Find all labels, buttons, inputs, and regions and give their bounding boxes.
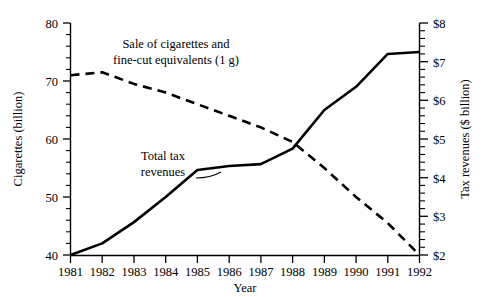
right-tick-label-5: $5	[433, 133, 446, 147]
x-tick-label-1982: 1982	[90, 265, 115, 279]
left-tick-label-50: 50	[46, 191, 59, 205]
sale-of-cigarettes-label-line1: Sale of cigarettes and	[122, 37, 230, 51]
x-tick-label-1981: 1981	[58, 265, 83, 279]
x-tick-label-1988: 1988	[280, 265, 305, 279]
right-tick-label-6: $6	[433, 94, 446, 108]
left-axis-title: Cigarettes (billion)	[11, 92, 25, 187]
right-tick-label-8: $8	[433, 17, 446, 31]
x-tick-label-1984: 1984	[153, 265, 179, 279]
right-tick-label-2: $2	[433, 249, 446, 263]
left-tick-label-70: 70	[46, 75, 59, 89]
total-tax-revenues-label-line1: Total tax	[141, 149, 186, 163]
right-tick-label-3: $3	[433, 210, 446, 224]
figure-background	[0, 0, 482, 297]
x-tick-label-1991: 1991	[375, 265, 400, 279]
sale-of-cigarettes-label-line2: fine-cut equivalents (1 g)	[113, 53, 239, 67]
total-tax-revenues-label-line2: revenues	[141, 165, 186, 179]
right-tick-label-7: $7	[433, 56, 446, 70]
chart-figure: 80 70 60 50 40 Cigarettes (billion)	[0, 0, 482, 297]
x-tick-label-1985: 1985	[185, 265, 210, 279]
x-tick-label-1989: 1989	[312, 265, 337, 279]
x-tick-label-1992: 1992	[407, 265, 432, 279]
x-tick-label-1987: 1987	[248, 265, 273, 279]
x-axis-title: Year	[233, 281, 257, 295]
left-tick-label-80: 80	[46, 17, 59, 31]
right-axis-title: Tax revenues ($ billion)	[458, 79, 472, 199]
left-tick-label-40: 40	[46, 249, 59, 263]
right-tick-label-4: $4	[433, 172, 446, 186]
chart-canvas: 80 70 60 50 40 Cigarettes (billion)	[0, 0, 482, 297]
x-tick-label-1983: 1983	[122, 265, 147, 279]
x-tick-label-1986: 1986	[217, 265, 242, 279]
left-tick-label-60: 60	[46, 133, 59, 147]
x-tick-label-1990: 1990	[344, 265, 369, 279]
